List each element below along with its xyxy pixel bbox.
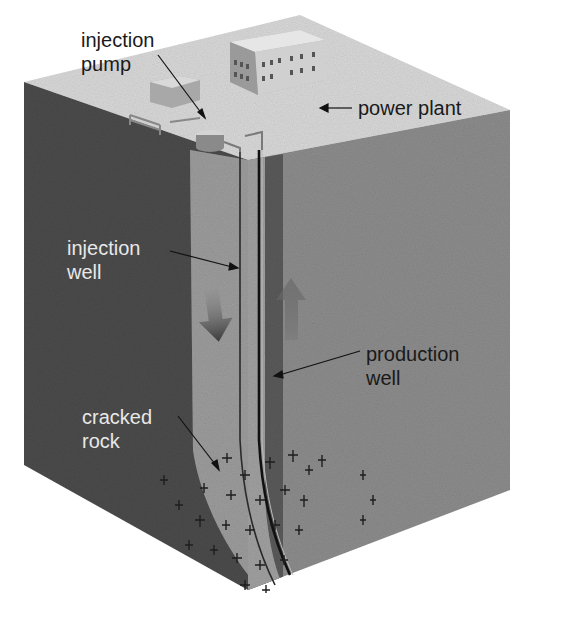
injection-pump-label-line1: injection xyxy=(81,28,154,52)
injection-well-label-line1: injection xyxy=(67,236,140,260)
injection-well-label-line2: well xyxy=(67,260,140,284)
production-well-label: production well xyxy=(366,342,459,390)
injection-pump-label: injection pump xyxy=(81,28,154,76)
injection-pump-label-line2: pump xyxy=(81,52,154,76)
cracked-rock-label-line1: cracked xyxy=(82,405,152,429)
power-plant-label: power plant xyxy=(358,96,461,120)
production-well-label-line2: well xyxy=(366,366,459,390)
injection-well-label: injection well xyxy=(67,236,140,284)
injection-pump-tank xyxy=(196,130,224,152)
geothermal-block-diagram xyxy=(0,0,575,620)
production-well-label-line1: production xyxy=(366,342,459,366)
cracked-rock-label: cracked rock xyxy=(82,405,152,453)
cracked-rock-label-line2: rock xyxy=(82,429,152,453)
